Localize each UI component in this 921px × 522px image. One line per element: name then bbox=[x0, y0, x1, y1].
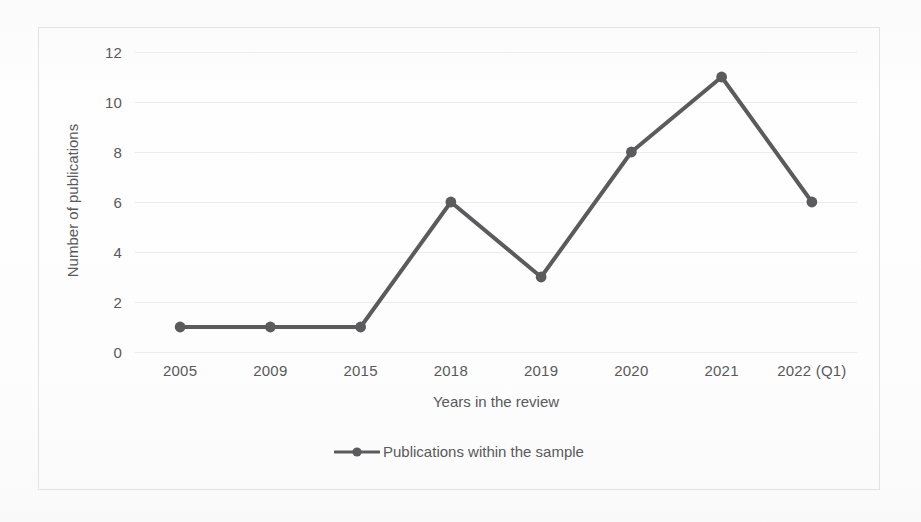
data-point-marker bbox=[536, 272, 547, 283]
gridline bbox=[135, 352, 857, 353]
chart-screenshot: 024681012 Number of publications 2005200… bbox=[0, 0, 921, 522]
y-axis-tick-labels: 024681012 bbox=[88, 52, 122, 352]
x-axis-tick-label: 2020 bbox=[614, 362, 648, 379]
x-axis-tick-label: 2005 bbox=[163, 362, 197, 379]
x-axis-tick-labels: 20052009201520182019202020212022 (Q1) bbox=[135, 362, 857, 386]
data-point-marker bbox=[806, 197, 817, 208]
x-axis-tick-label: 2009 bbox=[253, 362, 287, 379]
legend-item-publications-within-the-sample: Publications within the sample bbox=[334, 443, 584, 460]
y-axis-tick-label: 6 bbox=[92, 194, 122, 211]
data-point-marker bbox=[445, 197, 456, 208]
data-point-marker bbox=[626, 147, 637, 158]
legend-line-marker-icon bbox=[334, 445, 380, 459]
y-axis-tick-label: 12 bbox=[92, 44, 122, 61]
y-axis-tick-label: 0 bbox=[92, 344, 122, 361]
x-axis-title: Years in the review bbox=[135, 393, 857, 410]
series-line-publications-within-the-sample bbox=[180, 77, 812, 327]
series-markers bbox=[175, 72, 818, 333]
data-point-marker bbox=[175, 322, 186, 333]
y-axis-tick-label: 4 bbox=[92, 244, 122, 261]
x-axis-tick-label: 2015 bbox=[344, 362, 378, 379]
data-point-marker bbox=[265, 322, 276, 333]
chart-legend: Publications within the sample bbox=[38, 443, 880, 460]
x-axis-tick-label: 2022 (Q1) bbox=[777, 362, 846, 379]
x-axis-tick-label: 2018 bbox=[434, 362, 468, 379]
y-axis-tick-label: 8 bbox=[92, 144, 122, 161]
data-point-marker bbox=[716, 72, 727, 83]
y-axis-tick-label: 2 bbox=[92, 294, 122, 311]
plot-area bbox=[135, 52, 857, 352]
y-axis-title: Number of publications bbox=[64, 86, 81, 316]
data-point-marker bbox=[355, 322, 366, 333]
series-line-chart bbox=[135, 52, 857, 352]
x-axis-tick-label: 2019 bbox=[524, 362, 558, 379]
x-axis-tick-label: 2021 bbox=[705, 362, 739, 379]
legend-item-label: Publications within the sample bbox=[383, 443, 584, 460]
y-axis-tick-label: 10 bbox=[92, 94, 122, 111]
